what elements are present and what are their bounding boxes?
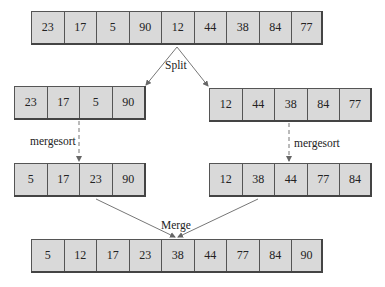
- array-cell: 44: [194, 11, 227, 43]
- left-half-array: 23 17 5 90: [14, 86, 146, 120]
- array-cell: 38: [161, 239, 194, 271]
- array-cell: 23: [79, 163, 112, 195]
- array-cell: 84: [339, 163, 370, 195]
- array-cell: 90: [291, 239, 321, 271]
- right-half-array: 12 44 38 84 77: [209, 88, 372, 122]
- array-cell: 84: [307, 88, 340, 120]
- array-cell: 23: [129, 239, 162, 271]
- array-cell: 77: [226, 239, 259, 271]
- array-cell: 77: [291, 11, 321, 43]
- right-sorted-array: 12 38 44 77 84: [209, 163, 372, 197]
- array-cell: 90: [112, 163, 145, 195]
- array-cell: 5: [79, 86, 112, 118]
- array-cell: 44: [194, 239, 227, 271]
- array-cell: 23: [31, 11, 64, 43]
- array-cell: 23: [14, 86, 47, 118]
- array-cell: 38: [226, 11, 259, 43]
- merged-array: 5 12 17 23 38 44 77 84 90: [31, 239, 323, 273]
- array-cell: 5: [14, 163, 47, 195]
- array-cell: 84: [259, 239, 292, 271]
- left-sorted-array: 5 17 23 90: [14, 163, 146, 197]
- mergesort-label-left: mergesort: [30, 135, 76, 147]
- array-cell: 77: [307, 163, 340, 195]
- array-cell: 90: [112, 86, 145, 118]
- array-cell: 17: [47, 163, 80, 195]
- split-label: Split: [165, 59, 187, 71]
- array-cell: 44: [242, 88, 275, 120]
- array-cell: 17: [64, 11, 97, 43]
- array-cell: 5: [31, 239, 64, 271]
- merge-arrow-right: [178, 199, 258, 237]
- original-array: 23 17 5 90 12 44 38 84 77: [31, 11, 323, 45]
- array-cell: 12: [161, 11, 194, 43]
- array-cell: 90: [129, 11, 162, 43]
- array-cell: 38: [242, 163, 275, 195]
- array-cell: 17: [47, 86, 80, 118]
- mergesort-label-right: mergesort: [294, 137, 340, 149]
- array-cell: 77: [339, 88, 370, 120]
- array-cell: 38: [274, 88, 307, 120]
- array-cell: 12: [209, 163, 242, 195]
- array-cell: 44: [274, 163, 307, 195]
- merge-label: Merge: [161, 219, 191, 231]
- array-cell: 12: [64, 239, 97, 271]
- array-cell: 84: [259, 11, 292, 43]
- array-cell: 17: [96, 239, 129, 271]
- array-cell: 5: [96, 11, 129, 43]
- merge-arrow-left: [96, 199, 175, 237]
- array-cell: 12: [209, 88, 242, 120]
